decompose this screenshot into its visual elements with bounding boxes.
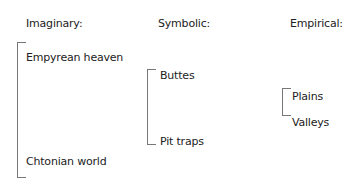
heading-empirical: Empirical:: [290, 17, 343, 30]
bracket-empirical: [282, 88, 283, 116]
diagram: Imaginary: Symbolic: Empirical: Empyrean…: [0, 0, 359, 188]
bracket-imaginary: [17, 42, 18, 178]
item-chtonian-world: Chtonian world: [26, 155, 106, 168]
item-empyrean-heaven: Empyrean heaven: [26, 51, 123, 64]
bracket-symbolic: [147, 69, 148, 145]
item-buttes: Buttes: [160, 69, 194, 82]
heading-symbolic: Symbolic:: [158, 17, 210, 30]
item-pit-traps: Pit traps: [160, 135, 204, 148]
item-valleys: Valleys: [292, 116, 329, 129]
heading-imaginary: Imaginary:: [26, 17, 82, 30]
item-plains: Plains: [292, 90, 323, 103]
